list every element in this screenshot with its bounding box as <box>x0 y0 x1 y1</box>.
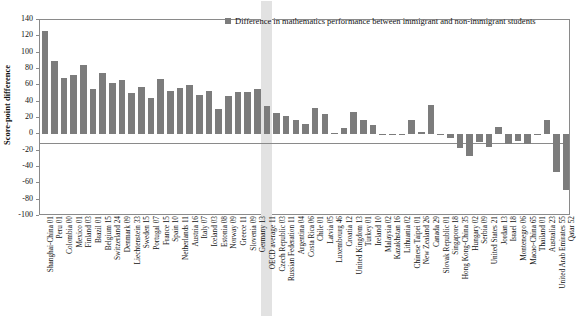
x-tick-label: Denmark 09 <box>124 216 132 252</box>
bar <box>360 120 367 134</box>
x-tick-label: Turkey 01 <box>365 216 373 246</box>
bar <box>563 134 570 190</box>
x-tick-label: Brazil 01 <box>95 216 103 243</box>
y-tick-label: 40 <box>0 97 33 105</box>
bar <box>437 134 444 135</box>
x-tick-label: Portugal 07 <box>153 216 161 250</box>
x-tick-label: New Zealand 26 <box>423 216 431 264</box>
x-tick-label: Spain 10 <box>172 216 180 242</box>
bar <box>447 134 454 137</box>
x-tick-label: Shanghai-China 01 <box>47 216 55 272</box>
x-tick-label: United States 21 <box>491 216 499 264</box>
bar <box>312 108 319 134</box>
x-tick-label: Iceland 03 <box>211 216 219 247</box>
x-tick-label: Qatar 52 <box>568 216 576 241</box>
bar-series <box>40 20 569 214</box>
plot-area <box>39 19 570 215</box>
y-tick-label: 100 <box>0 48 33 56</box>
y-axis-ticks: 140120100806040200-20-40-60-80-100 <box>0 19 36 215</box>
bar <box>244 92 251 134</box>
bar <box>148 98 155 135</box>
x-tick-label: Chile 01 <box>317 216 325 241</box>
bar <box>70 75 77 135</box>
x-tick-label: Netherlands 11 <box>182 216 190 260</box>
x-tick-label: Hong Kong-China 35 <box>462 216 470 279</box>
x-tick-label: Serbia 09 <box>481 216 489 244</box>
bar <box>418 132 425 134</box>
bar <box>283 116 290 135</box>
bar <box>167 91 174 134</box>
bar <box>61 78 68 134</box>
x-tick-label: Austria 16 <box>192 216 200 247</box>
bar <box>273 113 280 134</box>
bar <box>109 83 116 134</box>
bar <box>534 134 541 135</box>
bar <box>302 124 309 135</box>
bar <box>389 134 396 135</box>
bar <box>51 61 58 135</box>
y-tick-label: -20 <box>0 146 33 154</box>
x-tick-label: Sweden 15 <box>143 216 151 248</box>
x-tick-label: Hungary 02 <box>472 216 480 251</box>
bar <box>505 134 512 144</box>
x-tick-label: Israel 18 <box>510 216 518 241</box>
x-tick-label: Malaysia 02 <box>385 216 393 252</box>
bar <box>157 79 164 135</box>
x-tick-label: Montenegro 06 <box>520 216 528 261</box>
x-tick-label: Slovenia 09 <box>250 216 258 251</box>
bar <box>225 96 232 134</box>
x-tick-label: Macao-China 65 <box>530 216 538 265</box>
y-tick-label: 60 <box>0 80 33 88</box>
bar <box>399 134 406 135</box>
x-tick-label: Croatia 12 <box>346 216 354 247</box>
bar <box>119 80 126 134</box>
bar <box>128 93 135 135</box>
x-tick-label: Greece 11 <box>240 216 248 246</box>
y-tick-label: -40 <box>0 162 33 170</box>
x-tick-label: Russian Federation 11 <box>288 216 296 281</box>
bar <box>341 128 348 135</box>
x-tick-label: Kazakhstan 16 <box>394 216 402 259</box>
x-tick-label: Finland 03 <box>85 216 93 247</box>
x-tick-label: Argentina 04 <box>298 216 306 254</box>
bar <box>457 134 464 148</box>
bar <box>177 88 184 135</box>
x-tick-label: Germany 13 <box>259 216 267 252</box>
x-tick-label: Peru 01 <box>56 216 64 239</box>
x-tick-label: Luxembourg 46 <box>336 216 344 263</box>
y-tick-label: -100 <box>0 211 33 219</box>
y-tick-label: -80 <box>0 195 33 203</box>
x-tick-label: OECD average 11 <box>269 216 277 269</box>
y-tick-label: 0 <box>0 129 33 137</box>
x-tick-label: Switzerland 24 <box>114 216 122 260</box>
x-tick-label: France 15 <box>163 216 171 245</box>
bar <box>331 133 338 135</box>
x-tick-label: Australia 23 <box>549 216 557 252</box>
bar <box>466 134 473 155</box>
legend-swatch-icon <box>225 18 231 24</box>
bar <box>42 31 49 134</box>
x-tick-label: United Arab Emirates 55 <box>559 216 567 289</box>
bar <box>476 134 483 141</box>
bar <box>186 85 193 134</box>
bar <box>524 134 531 144</box>
bar <box>350 112 357 134</box>
bar <box>264 106 271 135</box>
bar <box>515 134 522 141</box>
x-tick-label: Estonia 08 <box>221 216 229 247</box>
x-tick-label: Costa Rica 06 <box>308 216 316 257</box>
x-tick-label: Thailand 01 <box>539 216 547 251</box>
bar <box>370 125 377 134</box>
x-tick-label: Belgium 15 <box>105 216 113 250</box>
x-tick-label: Colombia 00 <box>66 216 74 254</box>
chart-root: Score-point difference 14012010080604020… <box>0 0 577 334</box>
x-tick-label: Italy 07 <box>201 216 209 239</box>
bar <box>254 89 261 134</box>
x-axis-labels: Shanghai-China 01Peru 01Colombia 00Mexic… <box>39 216 570 334</box>
bar <box>544 120 551 135</box>
bar <box>138 87 145 134</box>
bar <box>196 95 203 134</box>
y-tick-label: 20 <box>0 113 33 121</box>
bar <box>428 105 435 134</box>
x-tick-label: Jordan 13 <box>501 216 509 245</box>
